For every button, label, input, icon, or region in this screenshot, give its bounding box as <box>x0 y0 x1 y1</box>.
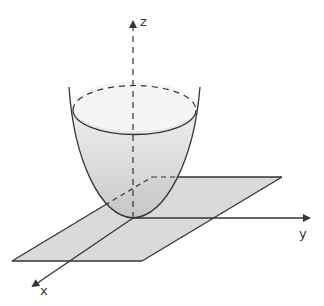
z-axis-label: z <box>140 14 147 29</box>
y-axis-label: y <box>299 226 307 241</box>
x-axis-label: x <box>40 283 48 298</box>
diagram-canvas: z y x <box>0 0 324 306</box>
